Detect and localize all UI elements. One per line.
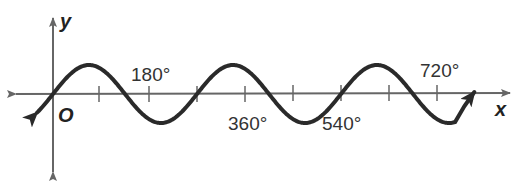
- x-axis: [16, 93, 510, 94]
- y-axis-label: y: [59, 10, 72, 32]
- origin-label: O: [58, 104, 74, 126]
- tick-label-540: 540°: [322, 113, 361, 134]
- tick-label-360: 360°: [228, 113, 267, 134]
- x-axis-label: x: [494, 98, 507, 120]
- tick-label-720: 720°: [420, 60, 459, 81]
- tick-label-180: 180°: [131, 64, 170, 85]
- sine-graph: y x O 180° 360° 540° 720°: [0, 0, 520, 181]
